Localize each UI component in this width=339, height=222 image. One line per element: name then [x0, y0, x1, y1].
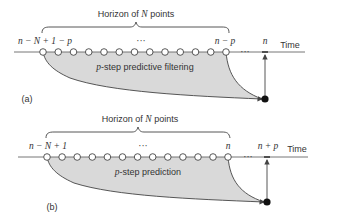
panel-caption: (b)	[47, 202, 58, 212]
horizon-label: Horizon of N points	[102, 114, 179, 124]
prediction-region	[47, 157, 264, 202]
region-label: p-step prediction	[114, 167, 181, 177]
end-label: n	[226, 141, 231, 151]
horizon-brace	[42, 22, 229, 33]
diagram: Horizon of N points Time n − N + 1 − p n…	[0, 0, 339, 222]
end-label: n − p	[215, 36, 236, 46]
predicted-point	[263, 198, 270, 205]
ellipsis-right: ···	[240, 47, 250, 57]
panel-caption: (a)	[22, 94, 33, 104]
horizon-brace	[46, 127, 230, 138]
target-label: n + p	[258, 141, 279, 151]
time-label: Time	[287, 144, 307, 154]
time-label: Time	[280, 40, 300, 50]
horizon-label: Horizon of N points	[98, 9, 175, 19]
ellipsis-mid: ···	[136, 36, 146, 46]
region-label: p-step predictive filtering	[95, 62, 193, 72]
start-label: n − N + 1 − p	[18, 36, 72, 46]
start-label: n − N + 1	[29, 141, 67, 151]
target-label: n	[263, 36, 268, 46]
ellipsis-right: ···	[243, 152, 253, 162]
filtering-region	[43, 52, 262, 99]
panel-b: Horizon of N points Time n − N + 1 n ···…	[18, 114, 308, 212]
predicted-point	[261, 95, 268, 102]
ellipsis-mid: ···	[138, 141, 148, 151]
panel-a: Horizon of N points Time n − N + 1 − p n…	[14, 9, 305, 104]
